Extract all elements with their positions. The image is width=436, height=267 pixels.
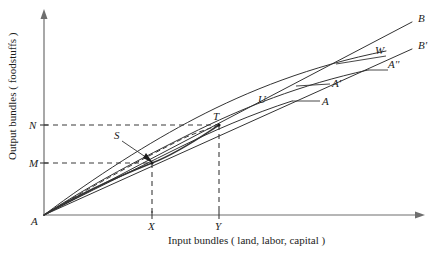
y-tick-label-N: N [28,119,37,131]
production-curves [44,22,412,215]
point-label-T: T [213,110,220,122]
x-axis-title: Input bundles ( land, labor, capital ) [168,234,326,247]
curve-label-A-prime: A' [331,77,342,89]
point-marker-T [217,123,220,126]
curve-label-A-double-prime: A'' [387,58,400,70]
curve-A-double-prime [44,51,386,215]
x-tick-label-X: X [147,220,156,232]
x-axis-arrowhead [415,212,425,219]
x-tick-label-Y: Y [215,220,223,232]
y-axis-title: Output bundles ( foodstuffs ) [6,32,19,160]
curve-label-B: B [418,12,425,24]
x-axis [44,212,425,219]
point-label-W: W [375,44,385,56]
curve-label-B-prime: B' [418,39,428,51]
origin-label: A [30,215,38,227]
point-label-U: U [258,93,267,105]
y-axis-arrowhead [41,9,48,19]
point-marker-S [150,161,153,164]
curve-B-prime [44,49,412,215]
leader-line-A-double-prime [336,56,386,64]
y-axis [41,9,48,215]
point-label-S: S [114,129,120,141]
production-function-diagram: Output bundles ( foodstuffs ) Input bund… [0,0,436,267]
curve-label-A: A [321,95,329,107]
y-tick-label-M: M [28,157,39,169]
diagram-canvas: Output bundles ( foodstuffs ) Input bund… [0,0,436,267]
